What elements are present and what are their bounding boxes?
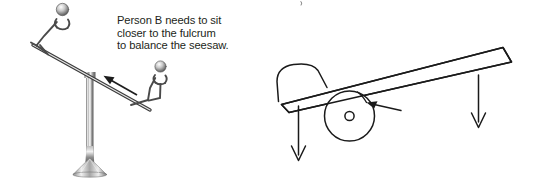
effort-force-arrow — [472, 75, 486, 128]
stray-mark — [301, 2, 302, 6]
right-panel-lever: load fulcrum load force effort force — [270, 0, 540, 179]
seesaw-caption: Person B needs to sit closer to the fulc… — [117, 14, 235, 52]
lever-drawing — [270, 0, 540, 179]
seesaw-stand — [73, 72, 107, 177]
left-panel-seesaw: Person B needs to sit closer to the fulc… — [0, 0, 270, 179]
load-force-arrow — [292, 106, 306, 161]
illustration-canvas: Person B needs to sit closer to the fulc… — [0, 0, 540, 179]
figure-person-b — [131, 61, 167, 105]
figure-person-a — [31, 3, 69, 54]
